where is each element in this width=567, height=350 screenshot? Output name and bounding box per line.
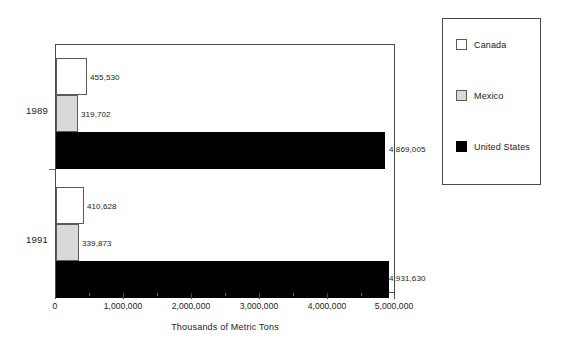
bar-1991-mexico xyxy=(56,224,79,261)
bar-value-1991-united-states: 4,931,630 xyxy=(389,274,426,283)
x-tick-minor-500000 xyxy=(89,293,90,296)
x-tick-5000000 xyxy=(394,293,395,299)
x-tick-minor-4500000 xyxy=(361,293,362,296)
legend-item-united-states[interactable]: United States xyxy=(456,141,530,152)
x-tick-label-1000000: 1,000,000 xyxy=(104,301,143,311)
bar-1991-canada xyxy=(56,187,84,224)
legend: Canada Mexico United States xyxy=(442,18,541,185)
bar-value-1991-canada: 410,628 xyxy=(87,202,117,211)
x-tick-label-3000000: 3,000,000 xyxy=(240,301,279,311)
legend-label-united-states: United States xyxy=(474,142,530,152)
bar-value-1989-mexico: 319,702 xyxy=(81,110,111,119)
y-axis-tick xyxy=(49,169,55,170)
x-tick-1000000 xyxy=(123,293,124,299)
x-axis-title: Thousands of Metric Tons xyxy=(55,322,395,332)
legend-label-canada: Canada xyxy=(474,40,506,50)
x-tick-label-0: 0 xyxy=(53,301,58,311)
legend-swatch-mexico-icon xyxy=(456,90,467,101)
x-tick-minor-1500000 xyxy=(157,293,158,296)
x-tick-4000000 xyxy=(327,293,328,299)
bar-value-1991-mexico: 339,873 xyxy=(82,239,112,248)
x-tick-2000000 xyxy=(191,293,192,299)
legend-swatch-canada-icon xyxy=(456,39,467,50)
x-tick-minor-2500000 xyxy=(225,293,226,296)
x-tick-minor-3500000 xyxy=(293,293,294,296)
category-label-1989: 1989 xyxy=(4,105,48,116)
bar-value-1989-canada: 455,530 xyxy=(90,73,120,82)
x-tick-label-5000000: 5,000,000 xyxy=(375,301,414,311)
x-tick-3000000 xyxy=(259,293,260,299)
legend-item-mexico[interactable]: Mexico xyxy=(456,90,503,101)
x-tick-label-2000000: 2,000,000 xyxy=(172,301,211,311)
bar-1989-united-states xyxy=(56,132,385,169)
legend-swatch-united-states-icon xyxy=(456,141,467,152)
legend-label-mexico: Mexico xyxy=(474,91,503,101)
legend-item-canada[interactable]: Canada xyxy=(456,39,506,50)
x-axis: 0 1,000,000 2,000,000 3,000,000 4,000,00… xyxy=(55,293,395,294)
x-tick-0 xyxy=(55,293,56,299)
x-tick-label-4000000: 4,000,000 xyxy=(308,301,347,311)
category-label-1991: 1991 xyxy=(4,234,48,245)
bar-1989-mexico xyxy=(56,95,78,132)
bar-value-1989-united-states: 4,869,005 xyxy=(389,145,426,154)
bar-1989-canada xyxy=(56,58,87,95)
